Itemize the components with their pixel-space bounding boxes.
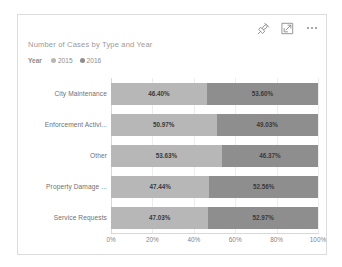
bar-segment-2015[interactable]: 47.03%	[111, 207, 208, 229]
bar-value-label: 46.37%	[259, 152, 280, 159]
bar-value-label: 49.03%	[257, 121, 278, 128]
x-axis-tick: 20%	[146, 236, 159, 243]
bar-segment-2015[interactable]: 53.63%	[111, 145, 222, 167]
bar-row: 53.63%46.37%	[111, 145, 318, 167]
bar-row: 47.03%52.97%	[111, 207, 318, 229]
bar-segment-2016[interactable]: 52.97%	[208, 207, 318, 229]
x-axis-tick: 100%	[310, 236, 326, 243]
x-axis-tick: 40%	[187, 236, 200, 243]
visual-title: Number of Cases by Type and Year	[28, 40, 153, 49]
bar-segment-2016[interactable]: 49.03%	[217, 114, 318, 136]
bar-segment-2016[interactable]: 46.37%	[222, 145, 318, 167]
legend-title: Year	[28, 57, 42, 64]
legend-swatch-2015	[51, 58, 56, 63]
bar-value-label: 46.40%	[148, 90, 169, 97]
bar-value-label: 53.63%	[156, 152, 177, 159]
bar-value-label: 52.97%	[252, 214, 273, 221]
ellipsis-dot	[311, 27, 313, 29]
x-axis-tick: 60%	[229, 236, 242, 243]
y-axis-label[interactable]: Other	[18, 145, 107, 167]
screenshot-root: Number of Cases by Type and Year Year 20…	[0, 0, 342, 267]
chart-plot-area: City MaintenanceEnforcement Activi...Oth…	[18, 72, 326, 254]
chart-legend: Year 2015 2016	[28, 57, 108, 64]
legend-label-2016: 2016	[87, 57, 102, 64]
x-axis-tick: 0%	[106, 236, 115, 243]
legend-item-2016[interactable]: 2016	[80, 57, 102, 64]
more-options-icon[interactable]	[304, 21, 320, 36]
bar-value-label: 47.03%	[149, 214, 170, 221]
bar-value-label: 50.97%	[153, 121, 174, 128]
bar-row: 50.97%49.03%	[111, 114, 318, 136]
legend-item-2015[interactable]: 2015	[51, 57, 73, 64]
bar-row: 46.40%53.60%	[111, 83, 318, 105]
y-axis-label[interactable]: City Maintenance	[18, 83, 107, 105]
visual-header-actions	[256, 18, 320, 38]
x-axis-tick-labels: 0%20%40%60%80%100%	[111, 236, 318, 250]
x-axis-line	[111, 233, 319, 234]
y-axis-label[interactable]: Service Requests	[18, 207, 107, 229]
bar-series-group: 46.40%53.60%50.97%49.03%53.63%46.37%47.4…	[111, 78, 318, 233]
bar-segment-2015[interactable]: 46.40%	[111, 83, 207, 105]
y-axis-label[interactable]: Enforcement Activi...	[18, 114, 107, 136]
bar-value-label: 53.60%	[252, 90, 273, 97]
bar-value-label: 52.56%	[253, 183, 274, 190]
pin-icon[interactable]	[256, 21, 271, 36]
bar-segment-2015[interactable]: 47.44%	[111, 176, 209, 198]
x-axis-tick: 80%	[270, 236, 283, 243]
bar-value-label: 47.44%	[149, 183, 170, 190]
y-axis-label[interactable]: Property Damage ...	[18, 176, 107, 198]
report-visual-card: Number of Cases by Type and Year Year 20…	[17, 14, 327, 255]
bar-segment-2016[interactable]: 53.60%	[207, 83, 318, 105]
ellipsis-dot	[307, 27, 309, 29]
bar-segment-2016[interactable]: 52.56%	[209, 176, 318, 198]
legend-swatch-2016	[80, 58, 85, 63]
bar-segment-2015[interactable]: 50.97%	[111, 114, 217, 136]
y-axis-category-labels: City MaintenanceEnforcement Activi...Oth…	[18, 78, 107, 233]
legend-label-2015: 2015	[58, 57, 73, 64]
focus-mode-icon[interactable]	[280, 21, 295, 36]
bar-row: 47.44%52.56%	[111, 176, 318, 198]
ellipsis-dot	[315, 27, 317, 29]
gridline	[318, 78, 319, 233]
